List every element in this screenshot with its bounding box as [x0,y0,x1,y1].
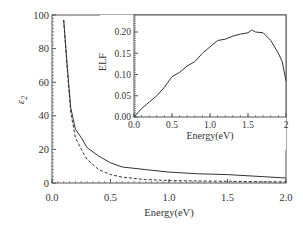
main-y-axis-label: ε2 [14,96,29,104]
main-x-axis-label: Energy(eV) [144,207,194,219]
inset-y-tick-label: 0.10 [114,70,131,80]
inset-y-tick-label: 0.00 [114,112,131,122]
chart-figure: 0.00.51.01.52.0020406080100Energy(eV)ε2 … [0,0,303,229]
main-x-tick-label: 0.5 [104,192,117,203]
chart-svg: 0.00.51.01.52.0020406080100Energy(eV)ε2 … [0,0,303,229]
inset-x-tick-label: 1.5 [242,120,254,130]
inset-x-tick-label: 1.0 [204,120,216,130]
inset-y-axis-label: ELF [97,53,108,71]
inset-y-tick-label: 0.05 [114,91,131,101]
inset-x-tick-label: 0.5 [166,120,178,130]
main-x-tick-label: 1.5 [221,192,234,203]
inset-x-axis-label: Energy(eV) [186,130,233,142]
main-y-tick-label: 40 [39,110,50,121]
main-x-tick-label: 1.0 [162,192,175,203]
main-y-tick-label: 60 [39,77,50,88]
main-y-tick-label: 80 [39,43,50,54]
main-y-tick-label: 100 [33,10,49,21]
inset-x-tick-label: 2 [284,120,289,130]
inset-y-tick-label: 0.20 [114,27,131,37]
main-x-tick-label: 0.0 [45,192,58,203]
main-x-tick-label: 2.0 [279,192,292,203]
main-y-tick-label: 0 [44,178,49,189]
main-y-tick-label: 20 [39,144,50,155]
inset-y-tick-label: 0.15 [114,49,131,59]
